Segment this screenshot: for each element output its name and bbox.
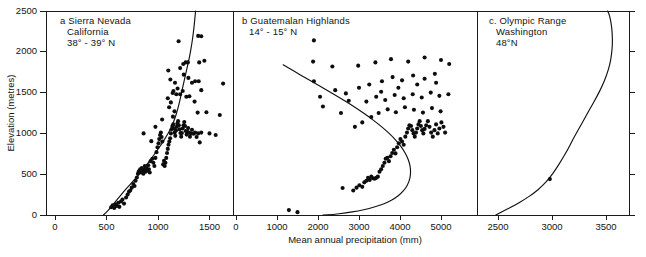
data-point [176,119,180,123]
data-point [382,161,386,165]
data-point [400,78,404,82]
data-point [214,133,218,137]
panel-c-title-line-1: Washington [496,26,547,37]
data-point [427,125,431,129]
x-axis-title: Mean annual precipitation (mm) [288,234,422,245]
data-point [391,75,395,79]
panel-a-title-line-0: a Sierra Nevada [60,15,131,26]
panel-a-x-tick-label-1000: 1000 [147,221,168,232]
data-point [406,60,410,64]
data-point [318,95,322,99]
data-point [166,96,170,100]
panel-b-x-tick-label-3000: 3000 [348,221,369,232]
data-point [402,143,406,147]
data-point [405,131,409,135]
data-point [413,135,417,139]
data-point [199,131,203,135]
y-tick-label-2000: 2000 [16,45,37,56]
panel-c-title-line-2: 48°N [496,37,518,48]
y-tick-label-1500: 1500 [16,86,37,97]
data-point [443,131,447,135]
data-point [160,140,164,144]
data-point [173,81,177,85]
panel-a-x-tick-label-0: 0 [52,221,57,232]
data-point [190,128,194,132]
data-point [447,62,451,66]
data-point [173,134,177,138]
data-point [167,105,171,109]
data-point [437,94,441,98]
panel-c-x-tick-label-3000: 3000 [541,221,562,232]
data-point [432,128,436,132]
y-tick-label-1000: 1000 [16,127,37,138]
data-point [295,210,299,214]
data-point [196,111,200,115]
panel-a-fit-curve [103,11,195,215]
data-point [367,82,371,86]
data-point [415,126,419,130]
panel-a-x-tick-label-1500: 1500 [199,221,220,232]
data-point [434,122,438,126]
y-tick-label-2500: 2500 [16,5,37,16]
data-point [360,120,364,124]
data-point [403,105,407,109]
data-point [426,119,430,123]
data-point [418,119,422,123]
data-point [198,140,202,144]
data-point [429,91,433,95]
data-point [153,125,157,129]
data-point [357,86,361,90]
data-point [142,131,146,135]
figure-root: 05001000150020002500 050010001500a Sierr… [0,0,646,257]
data-point [174,128,178,132]
data-point [168,136,172,140]
data-point [174,92,178,96]
data-point [321,104,325,108]
data-point [155,145,159,149]
data-point [181,89,185,93]
data-point [430,106,434,110]
data-point [186,126,190,130]
data-point [197,79,201,83]
data-point [353,125,357,129]
data-point [414,131,418,135]
data-point [148,171,152,175]
data-point [395,145,399,149]
data-point [197,60,201,64]
data-point [341,186,345,190]
data-point [172,109,176,113]
data-point [548,177,552,181]
data-point [386,107,390,111]
data-point [177,39,181,43]
data-point [163,161,167,165]
data-point [379,90,383,94]
data-point [312,79,316,83]
data-point [373,60,377,64]
data-point [392,148,396,152]
data-point [218,113,222,117]
data-point [117,205,121,209]
data-point [176,86,180,90]
data-point [394,110,398,114]
data-point [433,72,437,76]
data-point [171,122,175,126]
panel-c-group: 250030003500c. Olympic RangeWashington48… [487,11,616,232]
data-point [439,58,443,62]
data-point [369,115,373,119]
data-point [202,59,206,63]
panel-a-x-tick-label-500: 500 [99,221,115,232]
data-point [396,86,400,90]
data-point [193,100,197,104]
data-point [171,115,175,119]
data-point [434,81,438,85]
panel-c-title-line-0: c. Olympic Range [489,15,566,26]
panel-b-x-tick-label-5000: 5000 [430,221,451,232]
data-point [135,175,139,179]
data-point [339,111,343,115]
data-point [187,94,191,98]
panel-c-x-tick-label-3500: 3500 [595,221,616,232]
y-tick-label-0: 0 [32,209,37,220]
data-point [423,55,427,59]
data-point [356,64,360,68]
data-point [179,135,183,139]
